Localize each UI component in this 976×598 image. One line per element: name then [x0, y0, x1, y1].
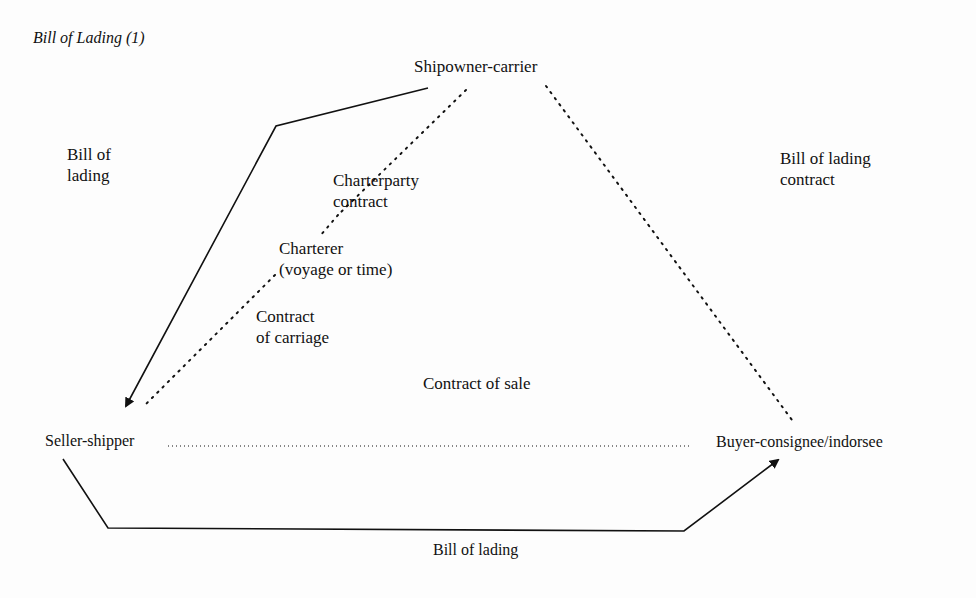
label-line: (voyage or time) — [279, 259, 392, 280]
label-line: contract — [780, 169, 871, 190]
node-buyer-consignee: Buyer-consignee/indorsee — [716, 431, 883, 452]
diagram-lines — [0, 0, 976, 598]
diagram-title: Bill of Lading (1) — [33, 27, 145, 48]
label-contract-of-sale: Contract of sale — [423, 373, 531, 394]
label-line: Bill of — [67, 144, 111, 165]
label-line: Charterer — [279, 238, 392, 259]
label-bill-of-lading-contract: Bill of lading contract — [780, 148, 871, 190]
bill-of-lading-arrow-bottom — [63, 459, 778, 531]
label-line: of carriage — [256, 327, 329, 348]
label-line: Charterparty — [333, 170, 419, 191]
label-bill-of-lading-bottom: Bill of lading — [433, 539, 518, 560]
label-charterparty-contract: Charterparty contract — [333, 170, 419, 212]
node-charterer: Charterer (voyage or time) — [279, 238, 392, 280]
bill-of-lading-contract-line — [546, 86, 792, 420]
label-line: contract — [333, 191, 419, 212]
charterer-link-line — [320, 215, 338, 236]
label-line: lading — [67, 165, 111, 186]
label-line: Bill of lading — [780, 148, 871, 169]
label-line: Contract — [256, 306, 329, 327]
label-contract-of-carriage: Contract of carriage — [256, 306, 329, 348]
node-shipowner-carrier: Shipowner-carrier — [414, 56, 537, 77]
node-seller-shipper: Seller-shipper — [45, 430, 134, 451]
label-bill-of-lading-left: Bill of lading — [67, 144, 111, 186]
